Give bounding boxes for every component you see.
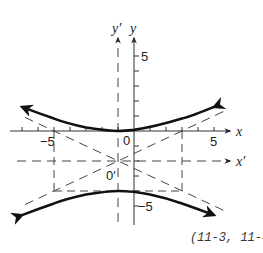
y-tick-label-pos5: 5 [141,49,148,64]
x-tick-label-neg5: −5 [40,134,55,149]
x-tick-label-pos5: 5 [210,134,217,149]
y-axis-label: y [128,21,137,36]
origin-prime-label: 0′ [106,168,116,183]
x-prime-axis-label: x′ [235,154,246,169]
y-tick-label-neg5: −5 [138,199,153,214]
figure-caption: (11-3, 11-4) [190,231,263,245]
origin-label: 0 [123,133,130,148]
x-axis-label: x [235,124,243,139]
hyperbola-diagram: x x′ y y′ 0 0′ 5 −5 5 −5 [0,0,263,253]
y-prime-axis-label: y′ [110,21,122,36]
